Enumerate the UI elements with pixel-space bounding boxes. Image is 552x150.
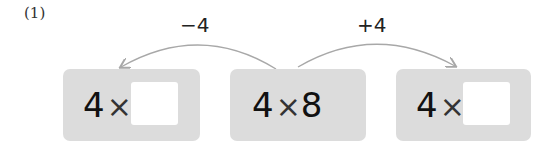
arrow-minus-icon: [121, 45, 276, 69]
multiplicand: 4: [252, 85, 274, 125]
expression-box-right: 4×: [396, 69, 531, 141]
times-sign: ×: [276, 89, 301, 124]
operation-minus-label: −4: [180, 13, 209, 37]
expression-middle: 4×8: [252, 83, 322, 129]
expression-box-middle: 4×8: [230, 69, 366, 141]
operation-plus-label: +4: [357, 13, 386, 37]
arrow-plus-icon: [298, 44, 455, 67]
expression-left: 4×: [83, 83, 132, 129]
times-sign: ×: [107, 89, 132, 124]
answer-blank-left[interactable]: [131, 82, 178, 125]
multiplicand: 4: [83, 85, 105, 125]
multiplier: 8: [301, 85, 323, 125]
multiplicand: 4: [416, 85, 438, 125]
times-sign: ×: [440, 89, 465, 124]
answer-blank-right[interactable]: [463, 82, 510, 125]
expression-right: 4×: [416, 83, 465, 129]
expression-box-left: 4×: [63, 69, 200, 141]
